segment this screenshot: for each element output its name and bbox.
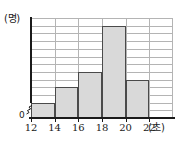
x-axis-label-20: 20 (119, 122, 132, 134)
plot-area (31, 18, 173, 118)
y-axis-line (30, 17, 32, 103)
gridline-vertical (172, 18, 173, 118)
y-axis-unit-label: (명) (4, 13, 20, 24)
gridline-vertical (149, 18, 150, 118)
bar-16-18 (78, 72, 102, 118)
x-axis-label-12: 12 (25, 122, 38, 134)
x-axis-label-16: 16 (72, 122, 85, 134)
x-axis-unit-label: (초) (148, 122, 165, 134)
bar-18-20 (102, 26, 126, 118)
y-axis-zero-label: 0 (19, 110, 25, 120)
axis-break-icon (25, 103, 37, 115)
bar-14-16 (55, 87, 79, 118)
histogram-chart: (명) 0 (0, 0, 176, 151)
x-axis-label-18: 18 (96, 122, 109, 134)
bar-20-22 (126, 80, 150, 119)
x-axis-label-14: 14 (48, 122, 61, 134)
